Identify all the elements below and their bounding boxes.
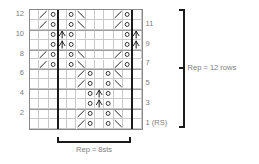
stitch-cell[interactable] <box>114 69 123 79</box>
stitch-cell[interactable] <box>58 30 67 40</box>
stitch-cell[interactable] <box>132 10 141 20</box>
stitch-cell[interactable] <box>67 109 76 119</box>
stitch-cell[interactable] <box>67 89 76 99</box>
stitch-cell[interactable] <box>77 89 86 99</box>
stitch-cell[interactable] <box>86 20 95 30</box>
stitch-cell[interactable] <box>132 60 141 70</box>
stitch-cell[interactable] <box>104 79 113 89</box>
stitch-cell[interactable] <box>86 119 95 129</box>
stitch-cell[interactable] <box>67 30 76 40</box>
stitch-cell[interactable] <box>77 40 86 50</box>
stitch-cell[interactable] <box>39 109 48 119</box>
stitch-cell[interactable] <box>104 109 113 119</box>
stitch-cell[interactable] <box>58 40 67 50</box>
stitch-cell[interactable] <box>39 99 48 109</box>
stitch-cell[interactable] <box>30 20 39 30</box>
stitch-cell[interactable] <box>77 20 86 30</box>
stitch-cell[interactable] <box>30 119 39 129</box>
stitch-cell[interactable] <box>114 60 123 70</box>
stitch-cell[interactable] <box>95 30 104 40</box>
stitch-cell[interactable] <box>77 99 86 109</box>
stitch-cell[interactable] <box>95 50 104 60</box>
stitch-cell[interactable] <box>114 20 123 30</box>
stitch-cell[interactable] <box>132 30 141 40</box>
stitch-cell[interactable] <box>104 119 113 129</box>
stitch-cell[interactable] <box>86 50 95 60</box>
stitch-cell[interactable] <box>39 50 48 60</box>
stitch-cell[interactable] <box>58 119 67 129</box>
stitch-cell[interactable] <box>39 10 48 20</box>
stitch-cell[interactable] <box>58 69 67 79</box>
stitch-cell[interactable] <box>104 40 113 50</box>
stitch-cell[interactable] <box>104 30 113 40</box>
stitch-cell[interactable] <box>86 109 95 119</box>
stitch-cell[interactable] <box>67 10 76 20</box>
stitch-cell[interactable] <box>77 109 86 119</box>
stitch-cell[interactable] <box>114 119 123 129</box>
stitch-cell[interactable] <box>77 69 86 79</box>
stitch-cell[interactable] <box>30 109 39 119</box>
stitch-cell[interactable] <box>86 99 95 109</box>
stitch-cell[interactable] <box>67 69 76 79</box>
stitch-cell[interactable] <box>77 119 86 129</box>
stitch-cell[interactable] <box>67 20 76 30</box>
stitch-cell[interactable] <box>95 10 104 20</box>
stitch-cell[interactable] <box>132 89 141 99</box>
stitch-cell[interactable] <box>77 50 86 60</box>
stitch-cell[interactable] <box>58 50 67 60</box>
stitch-cell[interactable] <box>95 20 104 30</box>
stitch-cell[interactable] <box>77 79 86 89</box>
stitch-cell[interactable] <box>95 79 104 89</box>
stitch-cell[interactable] <box>30 69 39 79</box>
stitch-cell[interactable] <box>67 79 76 89</box>
stitch-cell[interactable] <box>114 40 123 50</box>
stitch-cell[interactable] <box>39 89 48 99</box>
stitch-cell[interactable] <box>86 60 95 70</box>
stitch-cell[interactable] <box>104 69 113 79</box>
stitch-cell[interactable] <box>104 60 113 70</box>
stitch-cell[interactable] <box>86 69 95 79</box>
stitch-cell[interactable] <box>95 40 104 50</box>
stitch-cell[interactable] <box>58 109 67 119</box>
stitch-cell[interactable] <box>104 89 113 99</box>
stitch-cell[interactable] <box>58 99 67 109</box>
stitch-cell[interactable] <box>30 99 39 109</box>
stitch-grid[interactable] <box>29 9 143 130</box>
stitch-cell[interactable] <box>39 69 48 79</box>
stitch-cell[interactable] <box>104 50 113 60</box>
stitch-cell[interactable] <box>114 50 123 60</box>
stitch-cell[interactable] <box>114 109 123 119</box>
stitch-cell[interactable] <box>86 40 95 50</box>
stitch-cell[interactable] <box>114 99 123 109</box>
stitch-cell[interactable] <box>132 119 141 129</box>
stitch-cell[interactable] <box>39 79 48 89</box>
stitch-cell[interactable] <box>39 40 48 50</box>
stitch-cell[interactable] <box>132 50 141 60</box>
stitch-cell[interactable] <box>104 20 113 30</box>
stitch-cell[interactable] <box>30 30 39 40</box>
stitch-cell[interactable] <box>132 69 141 79</box>
stitch-cell[interactable] <box>95 119 104 129</box>
stitch-cell[interactable] <box>95 109 104 119</box>
stitch-cell[interactable] <box>58 20 67 30</box>
stitch-cell[interactable] <box>67 50 76 60</box>
stitch-cell[interactable] <box>67 40 76 50</box>
stitch-cell[interactable] <box>132 20 141 30</box>
stitch-cell[interactable] <box>114 89 123 99</box>
stitch-cell[interactable] <box>77 30 86 40</box>
stitch-cell[interactable] <box>58 89 67 99</box>
stitch-cell[interactable] <box>67 99 76 109</box>
stitch-cell[interactable] <box>30 40 39 50</box>
stitch-cell[interactable] <box>132 109 141 119</box>
stitch-cell[interactable] <box>67 60 76 70</box>
stitch-cell[interactable] <box>104 99 113 109</box>
stitch-cell[interactable] <box>132 79 141 89</box>
stitch-cell[interactable] <box>30 89 39 99</box>
stitch-cell[interactable] <box>77 10 86 20</box>
stitch-cell[interactable] <box>58 10 67 20</box>
stitch-cell[interactable] <box>114 10 123 20</box>
stitch-cell[interactable] <box>114 30 123 40</box>
stitch-cell[interactable] <box>39 30 48 40</box>
stitch-cell[interactable] <box>114 79 123 89</box>
stitch-cell[interactable] <box>30 60 39 70</box>
